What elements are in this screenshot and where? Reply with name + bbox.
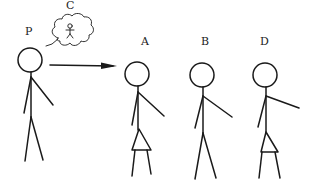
head xyxy=(253,63,277,87)
stick-figure-b xyxy=(190,63,232,179)
left-leg xyxy=(195,133,203,179)
label-a: A xyxy=(140,35,150,48)
thought-tail xyxy=(46,39,58,46)
stick-figure-p xyxy=(18,48,53,161)
thought-bubble xyxy=(46,13,93,46)
diagram-canvas: P C A B D xyxy=(0,0,313,194)
right-arm xyxy=(31,77,53,105)
label-b: B xyxy=(201,35,209,48)
right-leg xyxy=(275,152,280,178)
skirt xyxy=(132,129,151,150)
arrow-p-to-a xyxy=(50,63,117,70)
thought-cloud-outline xyxy=(52,13,93,45)
stick-figure-d xyxy=(253,63,299,178)
right-leg xyxy=(31,117,43,160)
right-arm xyxy=(266,96,299,108)
left-arm xyxy=(195,96,203,128)
head xyxy=(125,62,149,86)
diagram-svg: P C A B D xyxy=(0,0,313,194)
skirt xyxy=(261,132,278,152)
right-leg xyxy=(147,150,151,174)
right-arm xyxy=(138,92,164,116)
arrowhead-icon xyxy=(101,63,117,70)
head xyxy=(190,63,214,87)
head xyxy=(18,48,42,72)
left-arm xyxy=(258,96,266,127)
label-c: C xyxy=(66,0,74,12)
stick-figure-a xyxy=(125,62,164,176)
label-p: P xyxy=(25,25,33,38)
left-leg xyxy=(25,117,31,161)
right-leg xyxy=(203,133,216,178)
left-arm xyxy=(24,77,31,113)
label-d: D xyxy=(260,35,269,48)
right-arm xyxy=(203,96,232,117)
thought-stick-figure-icon xyxy=(66,24,74,38)
left-leg xyxy=(259,152,262,178)
left-arm xyxy=(132,92,138,125)
left-leg xyxy=(132,150,135,176)
